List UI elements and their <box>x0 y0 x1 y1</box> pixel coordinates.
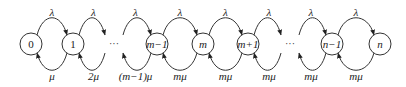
forward-transition-arrow <box>79 18 105 35</box>
ellipsis-marker: ··· <box>285 38 295 49</box>
backward-transition-arrow <box>254 53 281 70</box>
state-nodes: 01···m−1mm+1···n−1n <box>20 33 391 55</box>
arrival-rate-label: λ <box>308 6 314 18</box>
forward-transition-arrow <box>209 18 242 35</box>
backward-transition-arrow <box>209 53 242 70</box>
service-rate-label: mμ <box>349 70 363 82</box>
state-label: m−1 <box>147 38 168 50</box>
birth-death-diagram: 01···m−1mm+1···n−1n λλλλλλλλμ2μ(m−1)μmμm… <box>0 0 406 87</box>
service-rate-label: (m−1)μ <box>119 70 153 83</box>
backward-transition-arrow <box>338 53 374 70</box>
state-label: 1 <box>70 38 76 50</box>
arrival-rate-label: λ <box>49 6 55 18</box>
arrival-rate-label: λ <box>132 6 138 18</box>
state-node-n-1: n−1 <box>321 33 343 55</box>
state-label: n <box>377 38 383 50</box>
forward-transition-arrow <box>123 18 151 35</box>
state-node-m-1: m−1 <box>146 33 168 55</box>
service-rate-label: mμ <box>304 70 318 82</box>
arrival-rate-label: λ <box>266 6 272 18</box>
backward-transition-arrow <box>37 53 67 70</box>
service-rate-label: mμ <box>262 70 276 82</box>
state-node-1: 1 <box>62 33 84 55</box>
forward-transition-arrow <box>338 18 374 35</box>
forward-transition-arrow <box>299 18 326 35</box>
backward-transition-arrow <box>163 53 197 70</box>
backward-transition-arrow <box>79 53 105 70</box>
ellipsis-marker: ··· <box>109 38 119 49</box>
forward-transition-arrow <box>163 18 197 35</box>
forward-transition-arrow <box>37 18 67 35</box>
arrival-rate-label: λ <box>177 6 183 18</box>
forward-transition-arrow <box>254 18 281 35</box>
state-label: m <box>199 38 207 50</box>
service-rate-label: mμ <box>219 70 233 82</box>
state-node-m+1: m+1 <box>237 33 259 55</box>
state-node-n: n <box>369 33 391 55</box>
service-rate-label: 2μ <box>88 70 100 82</box>
state-label: m+1 <box>238 38 259 50</box>
state-label: 0 <box>28 38 34 50</box>
service-rate-label: μ <box>48 70 55 82</box>
state-label: n−1 <box>323 38 341 50</box>
arrival-rate-label: λ <box>222 6 228 18</box>
backward-transition-arrow <box>299 53 326 70</box>
state-node-0: 0 <box>20 33 42 55</box>
state-node-m: m <box>192 33 214 55</box>
arrival-rate-label: λ <box>353 6 359 18</box>
backward-transition-arrow <box>123 53 151 70</box>
service-rate-label: mμ <box>173 70 187 82</box>
arrival-rate-label: λ <box>90 6 96 18</box>
